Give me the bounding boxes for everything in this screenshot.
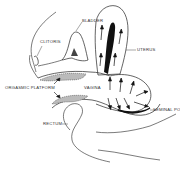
label-rectum: RECTUM xyxy=(43,122,62,126)
bladder-shape xyxy=(62,32,88,61)
label-uterus: UTERUS xyxy=(137,48,155,52)
orgasmic-platform-upper xyxy=(40,73,86,81)
label-clitoris: CLITORIS xyxy=(40,40,61,44)
labia-outline xyxy=(29,55,38,78)
posterior-body-line xyxy=(96,114,176,133)
lower-contour xyxy=(98,150,160,160)
vault-arrows xyxy=(108,77,149,110)
seminal-pool xyxy=(118,108,150,113)
label-orgasmic-platform: ORGASMIC PLATFORM xyxy=(5,86,55,90)
bladder-leader xyxy=(76,22,82,31)
clitoris-shape xyxy=(34,56,38,65)
clitoris-leader xyxy=(37,46,42,56)
label-bladder: BLADDER xyxy=(82,19,103,23)
anterior-wall xyxy=(38,60,62,66)
label-seminal-pool: SEMINAL POO xyxy=(153,108,180,112)
label-vagina: VAGINA xyxy=(84,86,101,90)
